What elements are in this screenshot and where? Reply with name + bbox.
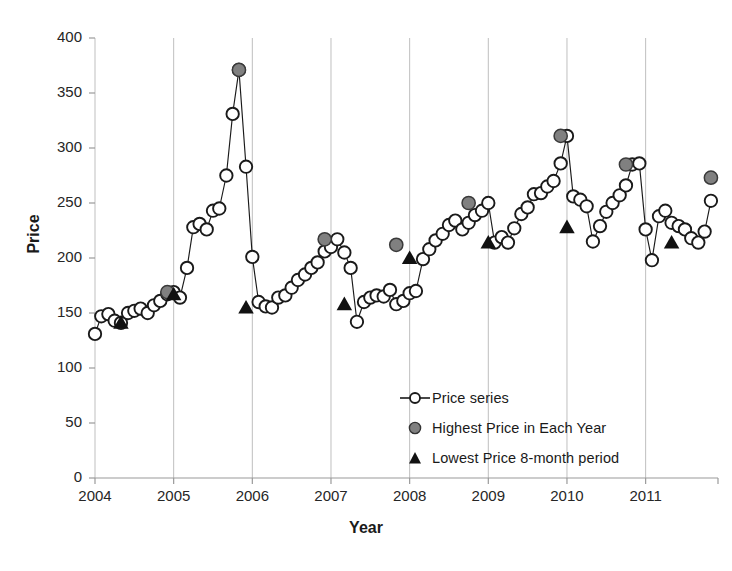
x-axis-tick-label: 2009 — [448, 487, 528, 504]
legend-item-highest-price: Highest Price in Each Year — [398, 413, 619, 443]
filled-gray-circle-marker-icon — [398, 417, 432, 439]
y-axis-tick-label: 0 — [30, 468, 82, 485]
x-axis-title: Year — [0, 519, 732, 537]
y-axis-tick-label: 400 — [30, 28, 82, 45]
x-axis-tick-label: 2008 — [370, 487, 450, 504]
y-axis-tick-label: 150 — [30, 303, 82, 320]
x-axis-tick-label: 2004 — [55, 487, 135, 504]
chart-legend: Price series Highest Price in Each Year … — [398, 383, 619, 473]
price-chart: 050100150200250300350400 200420052006200… — [0, 0, 732, 571]
x-axis-tick-label: 2005 — [134, 487, 214, 504]
legend-label: Highest Price in Each Year — [432, 420, 606, 436]
legend-label: Lowest Price 8-month period — [432, 450, 619, 466]
x-axis-tick-label: 2006 — [212, 487, 292, 504]
plot-area — [0, 0, 732, 571]
y-axis-tick-label: 350 — [30, 83, 82, 100]
legend-label: Price series — [432, 390, 509, 406]
price-series-markers — [89, 64, 717, 340]
y-axis-tick-label: 300 — [30, 138, 82, 155]
x-axis-tick-label: 2010 — [527, 487, 607, 504]
legend-item-price-series: Price series — [398, 383, 619, 413]
highest-price-markers — [161, 63, 718, 298]
y-axis-title: Price — [25, 191, 43, 277]
legend-item-lowest-price: Lowest Price 8-month period — [398, 443, 619, 473]
x-axis-tick-label: 2011 — [606, 487, 686, 504]
x-axis-tick-label: 2007 — [291, 487, 371, 504]
open-circle-line-marker-icon — [398, 387, 432, 409]
y-axis-tick-label: 50 — [30, 413, 82, 430]
filled-black-triangle-marker-icon — [398, 447, 432, 469]
y-axis-tick-label: 100 — [30, 358, 82, 375]
